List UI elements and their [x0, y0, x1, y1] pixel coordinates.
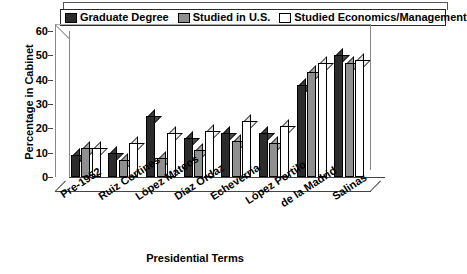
x-axis-category-label: Ruiz Cortines: [96, 153, 162, 202]
y-axis-tick-mark: [48, 31, 53, 32]
x-axis-title: Presidential Terms: [105, 252, 285, 264]
y-axis-tick-mark: [48, 153, 53, 154]
x-axis-category-label: Pre-1952: [58, 165, 103, 200]
y-axis-tick-mark: [48, 80, 53, 81]
y-axis-tick-mark: [48, 55, 53, 56]
y-axis-tick-mark: [48, 128, 53, 129]
y-axis-tick-mark: [48, 177, 53, 178]
y-axis-tick-mark: [48, 104, 53, 105]
